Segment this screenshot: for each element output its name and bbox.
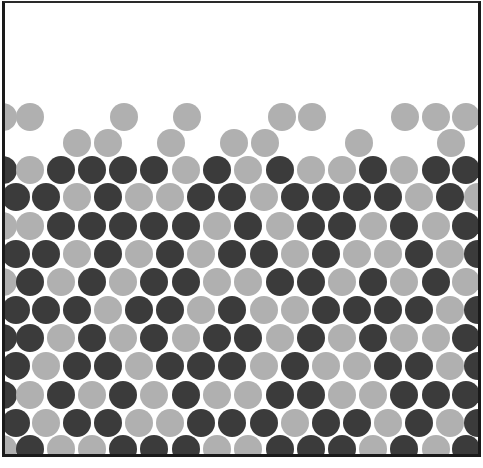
dark-particle: [390, 381, 418, 409]
dark-particle: [234, 324, 262, 352]
dark-particle: [140, 156, 168, 184]
dark-particle: [2, 296, 30, 324]
dark-particle: [140, 212, 168, 240]
loose-particle: [437, 129, 465, 157]
dark-particle: [452, 212, 480, 240]
dark-particle: [374, 183, 402, 211]
dark-particle: [78, 212, 106, 240]
light-particle: [452, 268, 480, 296]
dark-particle: [94, 183, 122, 211]
dark-particle: [297, 381, 325, 409]
dark-particle: [266, 268, 294, 296]
light-particle: [390, 268, 418, 296]
light-particle: [203, 212, 231, 240]
dark-particle: [32, 240, 60, 268]
dark-particle: [16, 435, 44, 457]
light-particle: [2, 212, 17, 240]
dark-particle: [172, 268, 200, 296]
light-particle: [359, 381, 387, 409]
dark-particle: [218, 409, 246, 437]
dark-particle: [312, 240, 340, 268]
dark-particle: [47, 381, 75, 409]
dark-particle: [266, 435, 294, 457]
dark-particle: [63, 409, 91, 437]
dark-particle: [218, 352, 246, 380]
dark-particle: [266, 381, 294, 409]
loose-particle: [251, 129, 279, 157]
light-particle: [374, 240, 402, 268]
dark-particle: [343, 183, 371, 211]
light-particle: [47, 435, 75, 457]
light-particle: [328, 268, 356, 296]
dark-particle: [109, 212, 137, 240]
light-particle: [187, 296, 215, 324]
light-particle: [422, 324, 450, 352]
dark-particle: [125, 296, 153, 324]
dark-particle: [63, 352, 91, 380]
loose-particle: [157, 129, 185, 157]
dark-particle: [297, 324, 325, 352]
loose-particle: [298, 103, 326, 131]
light-particle: [47, 324, 75, 352]
light-particle: [109, 324, 137, 352]
dark-particle: [2, 324, 17, 352]
dark-particle: [452, 381, 480, 409]
loose-particle: [220, 129, 248, 157]
light-particle: [125, 240, 153, 268]
dark-particle: [297, 268, 325, 296]
loose-particle: [110, 103, 138, 131]
particle-field: [5, 3, 478, 454]
dark-particle: [405, 352, 433, 380]
dark-particle: [374, 296, 402, 324]
dark-particle: [2, 409, 30, 437]
dark-particle: [32, 183, 60, 211]
light-particle: [266, 212, 294, 240]
light-particle: [359, 435, 387, 457]
dark-particle: [2, 381, 17, 409]
dark-particle: [47, 156, 75, 184]
light-particle: [390, 156, 418, 184]
light-particle: [78, 435, 106, 457]
light-particle: [156, 183, 184, 211]
dark-particle: [343, 409, 371, 437]
light-particle: [32, 352, 60, 380]
light-particle: [328, 381, 356, 409]
light-particle: [343, 240, 371, 268]
dark-particle: [359, 268, 387, 296]
dark-particle: [250, 240, 278, 268]
dark-particle: [343, 296, 371, 324]
light-particle: [16, 212, 44, 240]
light-particle: [156, 409, 184, 437]
dark-particle: [2, 183, 30, 211]
dark-particle: [422, 381, 450, 409]
dark-particle: [94, 240, 122, 268]
light-particle: [281, 409, 309, 437]
dark-particle: [187, 409, 215, 437]
light-particle: [63, 240, 91, 268]
dark-particle: [140, 324, 168, 352]
loose-particle: [422, 103, 450, 131]
dark-particle: [109, 435, 137, 457]
dark-particle: [390, 435, 418, 457]
light-particle: [47, 268, 75, 296]
light-particle: [250, 296, 278, 324]
dark-particle: [2, 240, 30, 268]
dark-particle: [218, 240, 246, 268]
loose-particle: [2, 103, 17, 131]
dark-particle: [94, 409, 122, 437]
dark-particle: [156, 352, 184, 380]
dark-particle: [405, 296, 433, 324]
light-particle: [436, 240, 464, 268]
dark-particle: [156, 240, 184, 268]
light-particle: [464, 183, 481, 211]
loose-particle: [345, 129, 373, 157]
light-particle: [234, 435, 262, 457]
dark-particle: [312, 409, 340, 437]
dark-particle: [405, 409, 433, 437]
light-particle: [390, 324, 418, 352]
light-particle: [203, 381, 231, 409]
dark-particle: [436, 183, 464, 211]
light-particle: [422, 435, 450, 457]
dark-particle: [32, 296, 60, 324]
dark-particle: [328, 212, 356, 240]
